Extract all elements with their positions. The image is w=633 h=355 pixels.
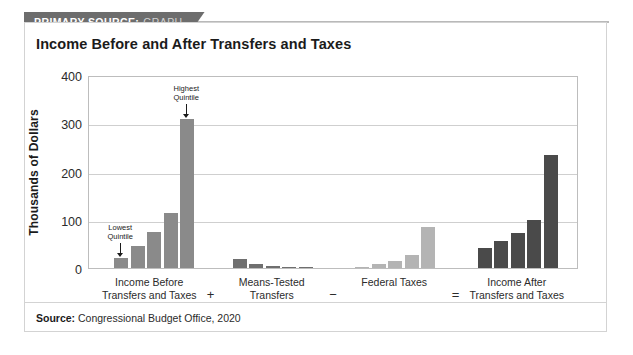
bar [511, 233, 525, 268]
bar [131, 246, 145, 268]
bar [266, 266, 280, 268]
x-axis-operator: − [325, 287, 341, 302]
y-axis-label: Thousands of Dollars [26, 76, 42, 269]
x-axis-group-label: Means-Tested Transfers [210, 276, 334, 302]
bar [405, 255, 419, 269]
y-axis-tick: 400 [61, 70, 82, 84]
bar [421, 227, 435, 268]
y-axis-tick: 100 [61, 215, 82, 229]
source-text: Congressional Budget Office, 2020 [78, 312, 241, 324]
bar [233, 259, 247, 268]
bar [282, 267, 296, 268]
quintile-annotation: Lowest Quintile [90, 224, 150, 241]
plot-area: 0100200300400 [88, 76, 578, 269]
source-divider [25, 302, 606, 303]
annotation-arrow-icon [186, 104, 187, 114]
bar [299, 267, 313, 268]
bar [388, 261, 402, 268]
bar [478, 248, 492, 268]
bars-layer [89, 77, 577, 268]
annotation-arrowhead-icon [117, 253, 123, 257]
bar [372, 264, 386, 268]
annotation-arrowhead-icon [183, 114, 189, 118]
x-axis-group-label: Income After Transfers and Taxes [455, 276, 579, 302]
source-label: Source: [36, 312, 75, 324]
screenshot-root: PRIMARY SOURCE: GRAPH Income Before and … [0, 0, 633, 355]
chart-title: Income Before and After Transfers and Ta… [36, 36, 351, 52]
bar [114, 258, 128, 268]
quintile-annotation: Highest Quintile [156, 85, 216, 102]
bar [544, 155, 558, 268]
x-axis-group-label: Federal Taxes [332, 276, 456, 289]
x-axis-group-label: Income Before Transfers and Taxes [87, 276, 211, 302]
annotation-arrow-icon [120, 243, 121, 253]
bar [355, 267, 369, 268]
y-axis-tick: 300 [61, 118, 82, 132]
source-note: Source: Congressional Budget Office, 202… [36, 312, 241, 324]
bar [164, 213, 178, 268]
y-axis-tick: 0 [75, 263, 82, 277]
bar [494, 241, 508, 268]
y-axis-tick: 200 [61, 167, 82, 181]
bar [180, 119, 194, 268]
bar [527, 220, 541, 268]
bar [249, 264, 263, 268]
